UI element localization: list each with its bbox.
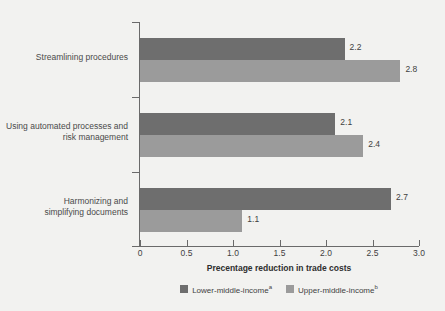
bar-value-label: 2.2 <box>350 42 362 52</box>
bar-value-label: 1.1 <box>247 214 259 224</box>
legend-text: Lower-middle-income <box>192 286 268 295</box>
bar-lower-middle-income-harmonizing <box>140 188 391 210</box>
legend-swatch-icon <box>286 285 294 293</box>
legend-label-upper-middle-income: Upper-middle-incomeb <box>298 284 378 295</box>
x-axis-title: Precentage reduction in trade costs <box>139 263 419 273</box>
x-axis-tick-label: 1.0 <box>227 248 239 258</box>
bar-value-label: 2.1 <box>340 117 352 127</box>
y-axis-tick <box>132 97 140 98</box>
legend-text: Upper-middle-income <box>298 286 374 295</box>
x-axis-line <box>139 246 419 247</box>
bar-lower-middle-income-streamlining <box>140 38 345 60</box>
x-axis-tick-label: 3.0 <box>413 248 425 258</box>
x-axis-tick <box>233 240 234 246</box>
y-axis-tick <box>132 172 140 173</box>
category-label-streamlining-procedures: Streamlining procedures <box>36 52 128 63</box>
x-axis-tick <box>140 240 141 246</box>
bar-upper-middle-income-automated <box>140 135 363 157</box>
bar-lower-middle-income-automated <box>140 113 335 135</box>
chart-legend: Lower-middle-incomea Upper-middle-income… <box>139 284 419 295</box>
bar-value-label: 2.7 <box>396 192 408 202</box>
x-axis-tick <box>187 240 188 246</box>
category-label-harmonizing-documents: Harmonizing and simplifying documents <box>44 196 128 218</box>
bar-upper-middle-income-streamlining <box>140 60 400 82</box>
x-axis-tick-label: 1.5 <box>274 248 286 258</box>
bar-chart: 00.51.01.52.02.53.0 Streamlining procedu… <box>0 0 445 311</box>
y-axis-tick <box>132 22 140 23</box>
x-axis-tick-label: 0 <box>138 248 143 258</box>
x-axis-tick-label: 2.0 <box>320 248 332 258</box>
x-axis-tick <box>326 240 327 246</box>
category-label-automated-processes: Using automated processes and risk manag… <box>6 121 128 143</box>
legend-item-upper-middle-income: Upper-middle-incomeb <box>286 284 378 295</box>
legend-footnote-marker: a <box>269 284 272 290</box>
bar-value-label: 2.4 <box>368 139 380 149</box>
bar-upper-middle-income-harmonizing <box>140 210 242 232</box>
legend-footnote-marker: b <box>374 284 377 290</box>
x-axis-tick <box>373 240 374 246</box>
bar-value-label: 2.8 <box>405 64 417 74</box>
x-axis-tick-label: 0.5 <box>181 248 193 258</box>
legend-label-lower-middle-income: Lower-middle-incomea <box>192 284 272 295</box>
x-axis-tick <box>280 240 281 246</box>
y-axis-tick <box>132 246 140 247</box>
legend-item-lower-middle-income: Lower-middle-incomea <box>180 284 272 295</box>
x-axis-tick-label: 2.5 <box>367 248 379 258</box>
x-axis-tick <box>419 240 420 246</box>
legend-swatch-icon <box>180 285 188 293</box>
